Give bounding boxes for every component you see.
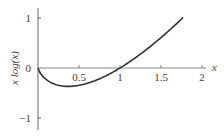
x-tick-label-1: 1	[117, 71, 123, 83]
y-tick-label-neg1: −1	[19, 112, 31, 124]
x-tick-label-0.5: 0.5	[72, 71, 86, 83]
chart: 1 0 −1 0.5 1 1.5 2 x x log(x)	[0, 0, 224, 136]
y-axis-title: x log(x)	[8, 51, 21, 86]
x-tick-label-1.5: 1.5	[154, 71, 168, 83]
x-axis-title: x	[211, 61, 217, 73]
y-tick-label-0: 0	[26, 62, 32, 74]
y-tick-label-1: 1	[26, 12, 32, 24]
x-tick-label-2: 2	[199, 71, 205, 83]
